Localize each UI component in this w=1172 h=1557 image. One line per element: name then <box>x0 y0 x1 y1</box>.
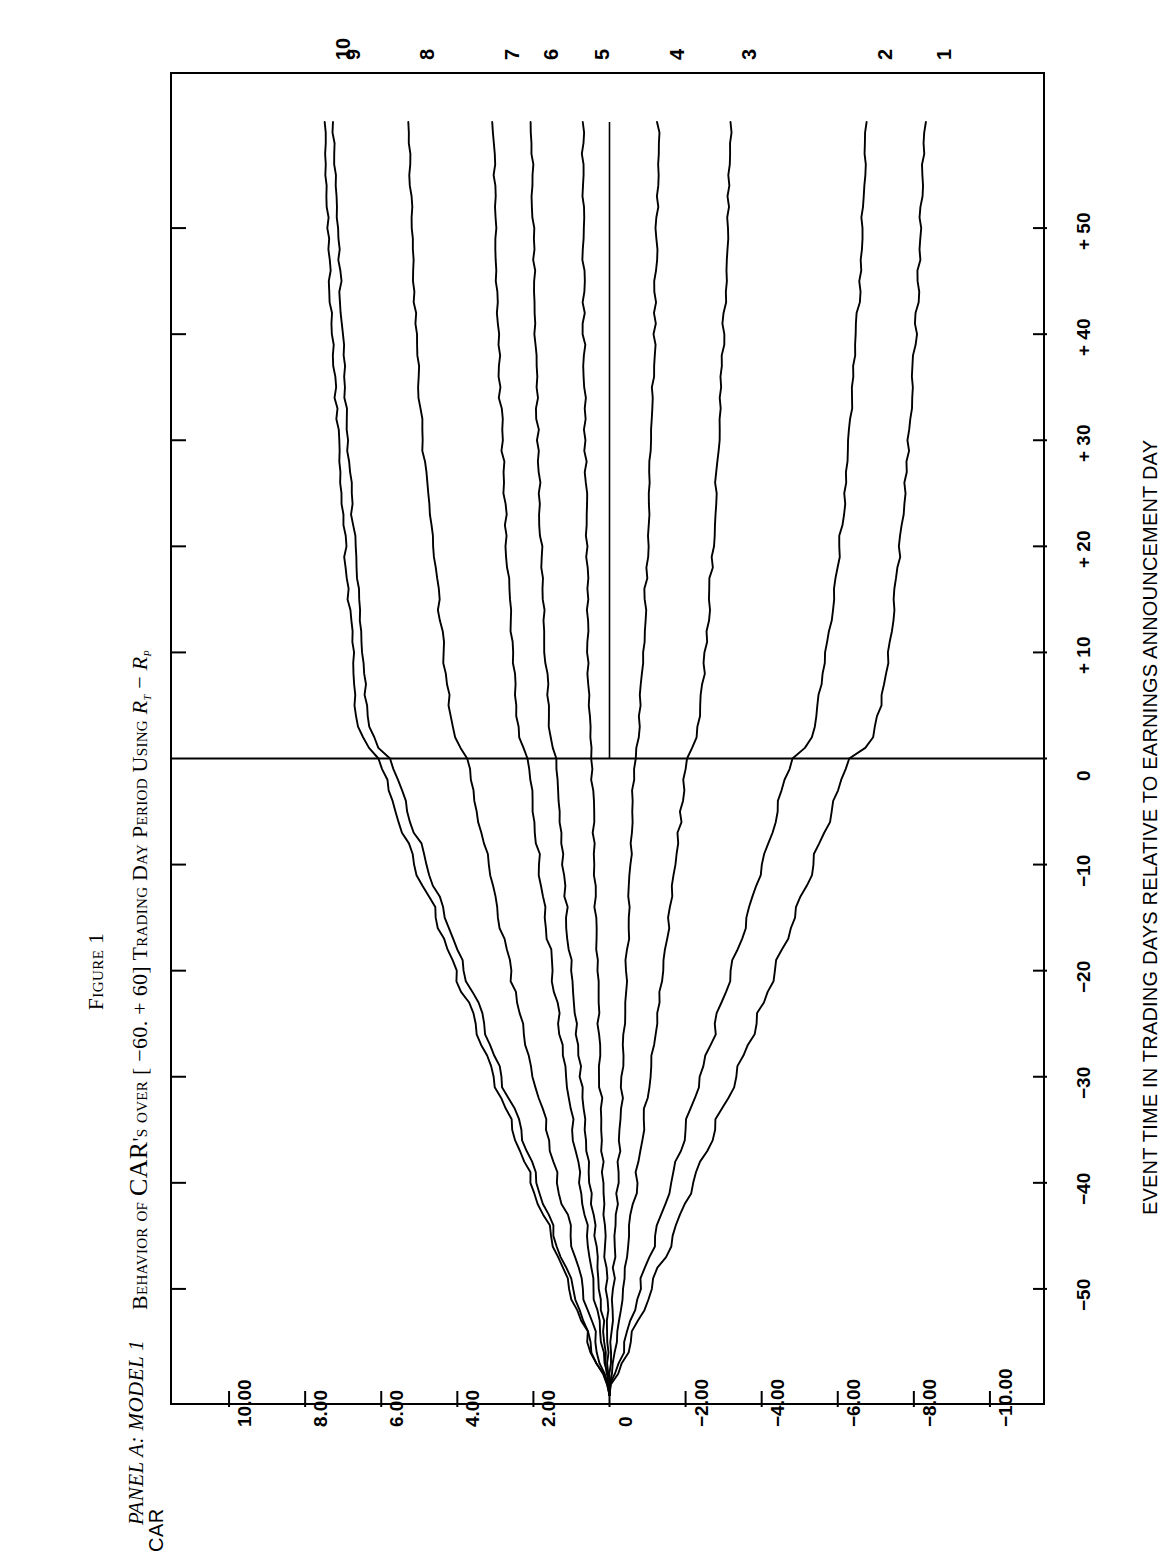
curve-label-4: 4 <box>666 49 689 60</box>
y-tick-label: −4.00 <box>767 1379 789 1427</box>
x-tick-label: + 10 <box>1073 637 1095 675</box>
y-tick-label: −10.00 <box>995 1368 1017 1427</box>
curve-label-9: 9 <box>342 49 365 60</box>
x-tick-label: 0 <box>1073 770 1095 781</box>
x-tick-label: −20 <box>1073 960 1095 992</box>
y-tick-label: 8.00 <box>310 1390 332 1427</box>
x-axis-title: EVENT TIME IN TRADING DAYS RELATIVE TO E… <box>1140 440 1160 1215</box>
x-tick-label: −50 <box>1073 1279 1095 1311</box>
figure-title-symbol-minus: − <box>127 670 152 694</box>
x-tick-label: + 20 <box>1073 531 1095 569</box>
x-tick-label: −40 <box>1073 1173 1095 1205</box>
x-tick-label: + 50 <box>1073 213 1095 251</box>
x-tick-label: + 30 <box>1073 425 1095 463</box>
figure-title-symbol-ri: R <box>127 700 152 714</box>
y-tick-label: 10.00 <box>234 1379 256 1427</box>
y-tick-label: 0 <box>615 1416 637 1427</box>
curve-label-2: 2 <box>874 49 897 60</box>
curve-label-1: 1 <box>933 49 956 60</box>
chart-canvas <box>172 74 1047 1407</box>
y-tick-label: −6.00 <box>843 1379 865 1427</box>
figure-number: Figure 1 <box>86 933 107 1010</box>
x-tick-label: −10 <box>1073 854 1095 886</box>
y-tick-label: −8.00 <box>919 1379 941 1427</box>
event-day-zero-line <box>172 122 1047 759</box>
curve-label-3: 3 <box>738 49 761 60</box>
figure-title-prefix: Behavior of <box>127 1196 152 1310</box>
panel-label: PANEL A: MODEL 1 <box>126 1340 147 1525</box>
figure-title-symbol-rp: R <box>127 657 152 671</box>
x-tick-label: + 40 <box>1073 319 1095 357</box>
y-tick-label: 6.00 <box>386 1390 408 1427</box>
figure-title-car: CAR <box>124 1142 153 1196</box>
curve-label-6: 6 <box>540 49 563 60</box>
curve-label-7: 7 <box>501 49 524 60</box>
figure-title: Behavior of CAR's over [ −60. + 60] Trad… <box>126 650 154 1310</box>
y-axis-title: CAR <box>146 1508 166 1552</box>
figure-page: Figure 1 Behavior of CAR's over [ −60. +… <box>0 0 1172 1557</box>
y-tick-label: 2.00 <box>538 1390 560 1427</box>
curve-label-5: 5 <box>591 49 614 60</box>
curve-label-8: 8 <box>416 49 439 60</box>
y-tick-label: −2.00 <box>691 1379 713 1427</box>
y-tick-label: 4.00 <box>462 1390 484 1427</box>
plot-area <box>170 72 1045 1405</box>
figure-title-rest: 's over [ −60. + 60] Trading Day Period … <box>127 714 152 1141</box>
x-tick-label: −30 <box>1073 1067 1095 1099</box>
